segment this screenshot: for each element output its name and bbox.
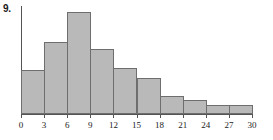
x-tick-label: 3 (33, 120, 55, 131)
histogram-bar (90, 49, 114, 114)
x-tick-label: 18 (149, 120, 171, 131)
histogram-bar (183, 100, 207, 114)
x-tick-mark (137, 114, 138, 118)
x-tick-mark (183, 114, 184, 118)
histogram-figure: 9. 036912151821242730 (0, 0, 273, 140)
x-tick-label: 0 (10, 120, 32, 131)
x-tick-mark (90, 114, 91, 118)
histogram-bar (67, 12, 91, 114)
x-tick-label: 21 (172, 120, 194, 131)
x-tick-mark (44, 114, 45, 118)
x-tick-label: 12 (102, 120, 124, 131)
x-tick-mark (113, 114, 114, 118)
x-tick-mark (21, 114, 22, 118)
x-tick-label: 30 (241, 120, 263, 131)
histogram-bar (160, 96, 184, 114)
x-tick-mark (160, 114, 161, 118)
x-tick-label: 6 (56, 120, 78, 131)
plot-area: 036912151821242730 (0, 0, 273, 140)
histogram-bar (21, 70, 45, 114)
x-tick-label: 15 (126, 120, 148, 131)
histogram-bar (44, 42, 68, 114)
x-tick-label: 27 (218, 120, 240, 131)
histogram-bar (137, 78, 161, 114)
x-tick-mark (67, 114, 68, 118)
x-tick-mark (252, 114, 253, 118)
histogram-bar (229, 105, 253, 114)
x-tick-mark (229, 114, 230, 118)
histogram-bar (113, 68, 137, 114)
x-tick-label: 9 (79, 120, 101, 131)
x-tick-mark (206, 114, 207, 118)
x-tick-label: 24 (195, 120, 217, 131)
histogram-bar (206, 105, 230, 114)
